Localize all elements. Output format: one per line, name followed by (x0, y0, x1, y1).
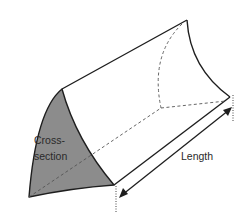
cross-section-label-line2: section (34, 148, 67, 164)
top-edge (62, 20, 187, 89)
length-label: Length (181, 151, 213, 162)
arrowhead-bottom-icon (119, 188, 128, 198)
prism-diagram (0, 0, 246, 223)
length-dimension-arrow (119, 107, 232, 198)
bottom-edge (114, 97, 230, 185)
cross-section-label: Cross- section (34, 132, 67, 164)
far-face-visible-edge (187, 20, 230, 97)
arrowhead-top-icon (223, 107, 232, 116)
cross-section-label-line1: Cross- (34, 132, 67, 148)
